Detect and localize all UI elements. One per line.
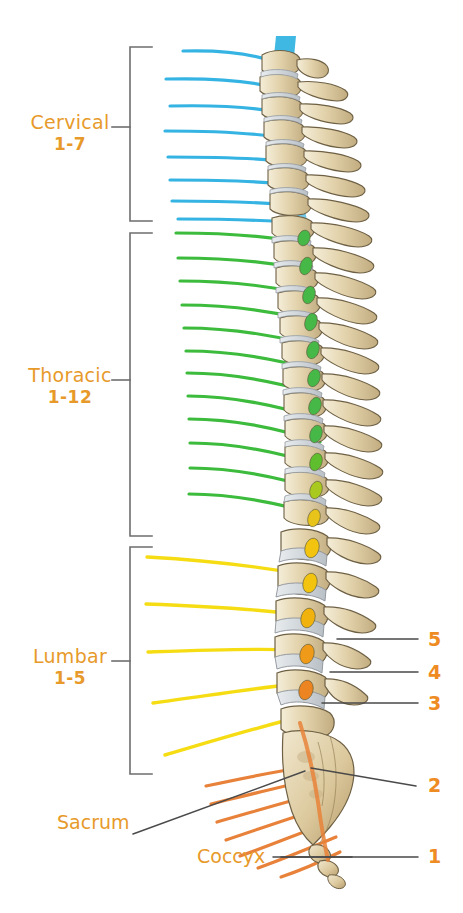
vertebra-number-sacrum-2: 2 (428, 774, 441, 796)
vertebra-number-lumbar-4: 4 (428, 661, 441, 683)
region-name-cervical: Cervical (30, 111, 109, 133)
label-sacrum: Sacrum (57, 811, 130, 833)
vertebra-number-lumbar-3: 3 (428, 692, 441, 714)
vertebra-number-coccyx-1: 1 (428, 845, 441, 867)
vertebra-number-lumbar-5: 5 (428, 628, 441, 650)
region-name-thoracic: Thoracic (28, 364, 111, 386)
lumbar-vertebrae (275, 529, 381, 738)
label-coccyx: Coccyx (197, 845, 265, 867)
region-name-lumbar: Lumbar (33, 645, 107, 667)
region-range-lumbar: 1-5 (0, 669, 140, 688)
cervical-vertebrae (260, 51, 369, 223)
leader-sacrum-label (133, 771, 305, 834)
region-label-thoracic: Thoracic 1-12 (0, 365, 140, 407)
region-label-cervical: Cervical 1-7 (0, 112, 140, 154)
region-range-cervical: 1-7 (0, 135, 140, 154)
region-range-thoracic: 1-12 (0, 388, 140, 407)
thoracic-vertebrae (272, 216, 383, 534)
region-label-lumbar: Lumbar 1-5 (0, 646, 140, 688)
diagram-canvas: Cervical 1-7 Thoracic 1-12 Lumbar 1-5 Sa… (0, 0, 463, 913)
